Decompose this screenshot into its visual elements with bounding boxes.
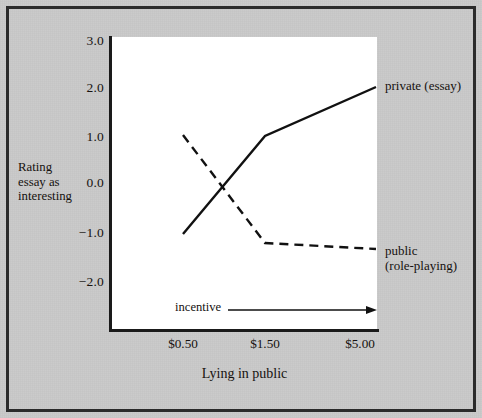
figure-container: 3.0 2.0 1.0 0.0 −1.0 −2.0 Rating essay a… (0, 0, 482, 418)
series-label-public-line-1: public (385, 243, 457, 258)
series-line-private-essay (183, 87, 376, 234)
series-label-public-role-playing: public (role-playing) (385, 243, 457, 273)
series-overlay (0, 0, 482, 418)
series-label-private-essay: private (essay) (385, 78, 461, 93)
incentive-annotation-label: incentive (175, 300, 221, 315)
series-label-public-line-2: (role-playing) (385, 258, 457, 273)
series-line-public-role-playing (183, 135, 376, 249)
series-label-private-line-1: private (essay) (385, 78, 461, 93)
incentive-arrow-head-icon (366, 306, 377, 314)
